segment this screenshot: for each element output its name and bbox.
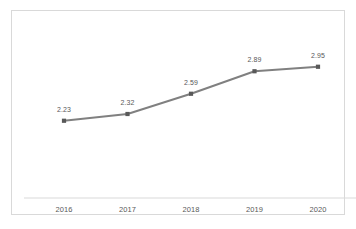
plot-area: 2.232.322.592.892.95 2016201720182019202… xyxy=(24,22,356,226)
data-point-marker xyxy=(189,92,193,96)
x-axis-category-label: 2016 xyxy=(55,205,72,214)
data-point-value-label: 2.95 xyxy=(311,52,325,59)
data-point-marker xyxy=(252,69,256,73)
data-point-value-label: 2.59 xyxy=(184,79,198,86)
data-point-value-label: 2.23 xyxy=(57,106,71,113)
chart-frame: 2.232.322.592.892.95 2016201720182019202… xyxy=(11,10,345,215)
data-point-value-label: 2.89 xyxy=(247,56,261,63)
x-axis-category-label: 2020 xyxy=(309,205,326,214)
x-axis-category-label: 2017 xyxy=(119,205,136,214)
data-point-marker xyxy=(125,112,129,116)
x-axis-category-label: 2019 xyxy=(246,205,263,214)
plot-svg xyxy=(24,22,356,226)
line-chart-figure: 2.232.322.592.892.95 2016201720182019202… xyxy=(0,0,356,229)
data-point-value-label: 2.32 xyxy=(120,99,134,106)
series-markers xyxy=(62,65,320,123)
data-point-marker xyxy=(316,65,320,69)
data-point-marker xyxy=(62,119,66,123)
x-axis-category-label: 2018 xyxy=(182,205,199,214)
